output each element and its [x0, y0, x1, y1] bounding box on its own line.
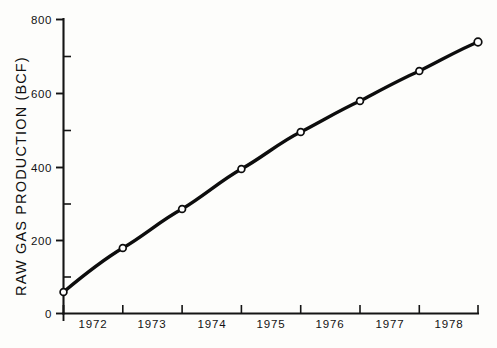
y-tick-label-800: 800: [10, 14, 52, 26]
data-point: [416, 68, 423, 75]
x-tick-label-1976: 1976: [316, 318, 345, 330]
x-tick-label-1972: 1972: [79, 318, 108, 330]
data-point: [357, 98, 364, 105]
x-tick-label-1977: 1977: [376, 318, 405, 330]
y-minor-ticks: [64, 57, 72, 278]
data-point: [297, 129, 304, 136]
data-point: [179, 206, 186, 213]
plot-canvas: [0, 0, 497, 348]
data-point: [474, 38, 482, 46]
data-point: [119, 245, 126, 252]
data-point: [238, 166, 245, 173]
data-series-line: [64, 42, 479, 292]
x-tick-label-1973: 1973: [138, 318, 167, 330]
y-axis-title: RAW GAS PRODUCTION (BCF): [13, 51, 29, 301]
data-point-markers: [60, 38, 482, 295]
y-tick-label-0: 0: [10, 308, 52, 320]
x-tick-label-1974: 1974: [198, 318, 227, 330]
data-point: [60, 289, 67, 296]
x-tick-label-1975: 1975: [257, 318, 286, 330]
chart-figure: 800 600 400 200 0 1972 1973 1974 1975 19…: [0, 0, 497, 348]
x-tick-label-1978: 1978: [435, 318, 464, 330]
